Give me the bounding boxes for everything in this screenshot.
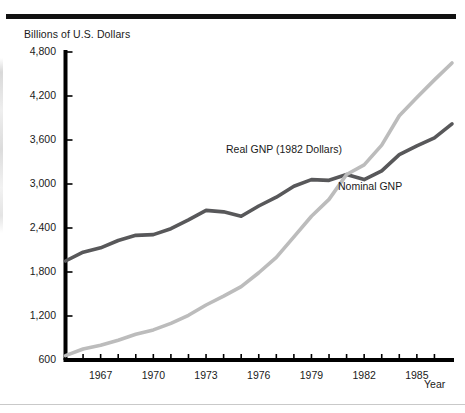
- y-tick-label: 3,600: [8, 133, 56, 145]
- x-tick-label: 1982: [342, 369, 386, 381]
- bottom-rule: [0, 404, 465, 405]
- x-tick-label: 1976: [237, 369, 281, 381]
- y-tick-label: 600: [8, 353, 56, 365]
- series-label-real-gnp: Real GNP (1982 Dollars): [226, 143, 342, 155]
- x-axis-title: Year: [424, 378, 445, 390]
- y-tick-label: 4,800: [8, 45, 56, 57]
- x-tick-label: 1979: [289, 369, 333, 381]
- chart-page: Billions of U.S. Dollars 6001,2001,8002,…: [0, 0, 465, 413]
- y-tick-label: 1,200: [8, 309, 56, 321]
- y-tick-label: 1,800: [8, 265, 56, 277]
- chart-series-lines: [66, 63, 453, 356]
- chart-tick-marks: [66, 52, 435, 360]
- series-label-nominal-gnp: Nominal GNP: [338, 180, 402, 192]
- chart-plot-area: [0, 0, 465, 413]
- y-tick-label: 2,400: [8, 221, 56, 233]
- y-tick-label: 4,200: [8, 89, 56, 101]
- x-tick-label: 1970: [131, 369, 175, 381]
- y-tick-label: 3,000: [8, 177, 56, 189]
- x-tick-label: 1973: [184, 369, 228, 381]
- x-tick-label: 1967: [79, 369, 123, 381]
